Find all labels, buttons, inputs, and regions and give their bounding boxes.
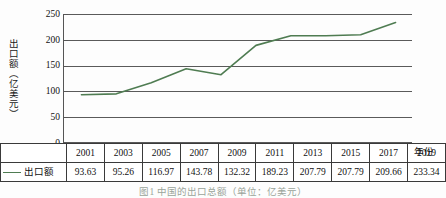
table-cell-year: 2015 bbox=[332, 144, 370, 163]
legend-row-header: 出口额 bbox=[1, 163, 67, 182]
x-axis-title: 年份 bbox=[414, 147, 434, 158]
table-corner-blank bbox=[1, 144, 67, 163]
table-cell-value: 209.66 bbox=[370, 163, 408, 182]
table-cell-year: 2009 bbox=[218, 144, 256, 163]
table-cell-year: 2017 bbox=[370, 144, 408, 163]
data-table: 2001 2003 2005 2007 2009 2011 2013 2015 … bbox=[0, 143, 446, 182]
series-line-出口额 bbox=[64, 14, 413, 143]
table-row-years: 2001 2003 2005 2007 2009 2011 2013 2015 … bbox=[1, 144, 446, 163]
table-cell-value: 116.97 bbox=[142, 163, 180, 182]
data-table-wrapper: 2001 2003 2005 2007 2009 2011 2013 2015 … bbox=[0, 143, 446, 181]
legend-line-icon bbox=[3, 172, 21, 173]
figure-caption: 图1 中国的出口总额（单位：亿美元） bbox=[0, 186, 446, 198]
table-cell-year: 2005 bbox=[142, 144, 180, 163]
table-cell-year: 2007 bbox=[180, 144, 218, 163]
table-cell-year: 2001 bbox=[67, 144, 105, 163]
table-cell-value: 93.63 bbox=[67, 163, 105, 182]
table-cell-value: 207.79 bbox=[332, 163, 370, 182]
table-cell-year: 2011 bbox=[256, 144, 294, 163]
plot-area bbox=[63, 14, 412, 143]
table-cell-value: 207.79 bbox=[294, 163, 332, 182]
table-cell-year: 2003 bbox=[104, 144, 142, 163]
y-axis-title: 出口额（亿美元） bbox=[4, 16, 22, 142]
table-cell-year: 2013 bbox=[294, 144, 332, 163]
legend-series-label: 出口额 bbox=[24, 167, 54, 177]
y-tick-250: 250 bbox=[26, 9, 60, 19]
y-tick-100: 100 bbox=[26, 86, 60, 96]
table-row-values: 出口额 93.63 95.26 116.97 143.78 132.32 189… bbox=[1, 163, 446, 182]
table-cell-value: 189.23 bbox=[256, 163, 294, 182]
y-tick-150: 150 bbox=[26, 60, 60, 70]
table-cell-value: 143.78 bbox=[180, 163, 218, 182]
table-cell-value: 132.32 bbox=[218, 163, 256, 182]
table-cell-value: 95.26 bbox=[104, 163, 142, 182]
table-cell-value: 233.34 bbox=[408, 163, 446, 182]
chart-figure: 出口额（亿美元） 250 200 150 100 50 0 bbox=[0, 0, 446, 198]
y-tick-200: 200 bbox=[26, 35, 60, 45]
y-axis-tick-labels: 250 200 150 100 50 0 bbox=[26, 0, 60, 150]
y-tick-50: 50 bbox=[26, 112, 60, 122]
